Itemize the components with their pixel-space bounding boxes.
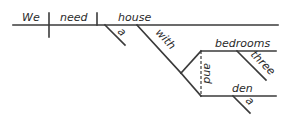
sentence-diagram: We need house a with bedrooms den and th… [0,0,291,118]
fork-lower [181,73,201,96]
preposition-word: with [153,26,178,52]
verb-word: need [60,11,89,24]
object-word: house [118,11,151,24]
three-word: three [248,48,278,78]
fork-upper [181,51,201,73]
bedrooms-word: bedrooms [215,37,270,50]
den-word: den [232,82,253,95]
conjunction-word: and [201,63,214,85]
subject-word: We [22,11,40,24]
